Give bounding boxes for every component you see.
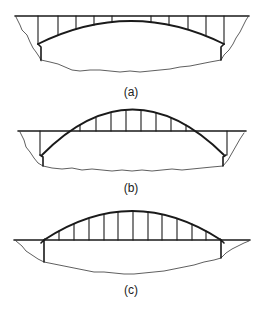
abutments: [40, 155, 226, 166]
abutments: [38, 44, 224, 60]
panel-c-label: (c): [101, 283, 161, 297]
arch: [42, 110, 224, 156]
abutments: [41, 240, 224, 262]
ground-profile: [20, 132, 244, 171]
hangers: [59, 211, 206, 240]
ground-profile: [16, 241, 249, 274]
panel-a-bridge: [15, 16, 249, 72]
panel-b-label: (b): [101, 181, 161, 195]
panel-a-label: (a): [101, 85, 161, 99]
panel-c-bridge: [14, 211, 250, 274]
arch: [38, 21, 224, 44]
arch-bridge-diagram: [0, 0, 262, 309]
ground-profile: [16, 17, 248, 72]
panel-b-bridge: [18, 110, 246, 172]
